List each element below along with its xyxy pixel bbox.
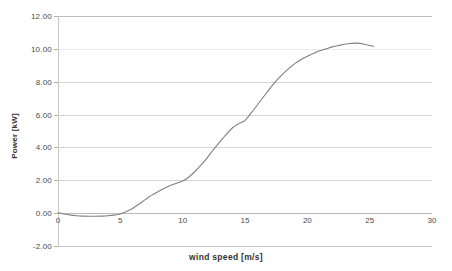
plot-area: -2.000.002.004.006.008.0010.0012.00 0510… <box>58 16 432 246</box>
y-axis-title: Power [kW] <box>10 113 19 159</box>
series-layer <box>58 16 432 246</box>
x-axis-title: wind speed [m/s] <box>0 252 452 262</box>
y-tick-mark <box>54 246 58 247</box>
power-curve-line <box>58 43 373 216</box>
y-tick-label: 10.00 <box>31 44 52 53</box>
y-tick-label: 6.00 <box>36 110 52 119</box>
y-tick-label: 12.00 <box>31 12 52 21</box>
chart-screenshot: Power [kW] -2.000.002.004.006.008.0010.0… <box>0 0 452 271</box>
grid-line <box>58 246 432 247</box>
y-tick-label: 8.00 <box>36 77 52 86</box>
y-tick-label: 4.00 <box>36 143 52 152</box>
y-tick-label: 0.00 <box>36 209 52 218</box>
y-tick-label: 2.00 <box>36 176 52 185</box>
y-tick-label: -2.00 <box>33 242 52 251</box>
